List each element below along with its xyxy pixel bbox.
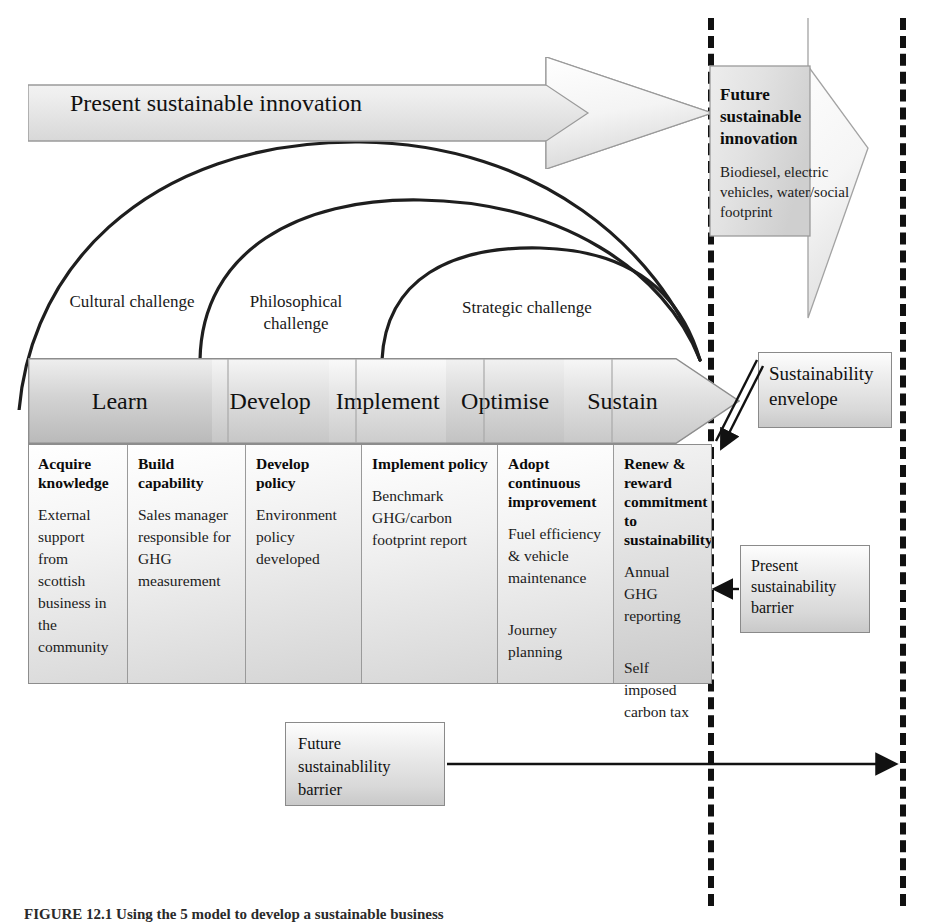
callout-label: Sustainability envelope (769, 363, 874, 409)
future-sustainable-innovation-block: Future sustainable innovation Biodiesel,… (708, 18, 888, 348)
present-sustainable-innovation-arrow: Present sustainable innovation (28, 57, 712, 169)
detail-heading: Build capability (138, 454, 236, 492)
present-arrow-label: Present sustainable innovation (70, 89, 490, 117)
process-band-arrow-tip (681, 358, 740, 444)
detail-column-develop-policy: Develop policy Environment policy develo… (246, 444, 362, 684)
detail-body-secondary: Journey planning (508, 619, 604, 663)
callout-future-sustainability-barrier: Future sustainablility barrier (285, 722, 445, 806)
arc-label-strategic: Strategic challenge (432, 297, 622, 319)
detail-heading: Acquire knowledge (38, 454, 118, 492)
process-stage-label: Develop (230, 388, 311, 415)
process-stage-label: Sustain (587, 388, 658, 415)
process-stage-label: Learn (92, 388, 148, 415)
stage-detail-columns: Acquire knowledge External support from … (28, 444, 712, 684)
detail-column-adopt-continuous-improvement: Adopt continuous improvement Fuel effici… (498, 444, 614, 684)
detail-body: Fuel efficiency & vehicle maintenance (508, 523, 604, 589)
arc-label-philosophical: Philosophical challenge (216, 291, 376, 335)
future-innovation-title: Future sustainable innovation (720, 84, 854, 150)
detail-body: Sales manager responsible for GHG measur… (138, 504, 236, 592)
process-stage-learn[interactable]: Learn (28, 358, 212, 444)
process-stage-develop[interactable]: Develop (212, 358, 329, 444)
detail-heading: Renew & reward commitment to sustainabil… (624, 454, 703, 549)
callout-sustainability-envelope: Sustainability envelope (758, 352, 892, 428)
process-stage-sustain[interactable]: Sustain (564, 358, 681, 444)
arc-label-cultural: Cultural challenge (62, 291, 202, 313)
process-stage-band: Learn Develop Implement Optimise Sustain (28, 358, 740, 444)
future-sustainability-barrier-line (900, 18, 906, 906)
figure-caption: FIGURE 12.1 Using the 5 model to develop… (24, 905, 914, 922)
detail-column-renew-reward: Renew & reward commitment to sustainabil… (614, 444, 712, 684)
callout-present-sustainability-barrier: Present sustainability barrier (740, 545, 870, 633)
detail-heading: Implement policy (372, 454, 488, 473)
philosophical-challenge-arc (200, 200, 700, 360)
detail-body: Annual GHG reporting (624, 561, 703, 627)
future-innovation-body: Biodiesel, electric vehicles, water/soci… (720, 162, 854, 222)
process-stage-optimise[interactable]: Optimise (446, 358, 563, 444)
detail-column-acquire-knowledge: Acquire knowledge External support from … (28, 444, 128, 684)
detail-heading: Develop policy (256, 454, 352, 492)
detail-body: External support from scottish business … (38, 504, 118, 658)
process-stage-fills: Learn Develop Implement Optimise Sustain (28, 358, 740, 444)
process-stage-implement[interactable]: Implement (329, 358, 446, 444)
detail-heading: Adopt continuous improvement (508, 454, 604, 511)
diagram-canvas: Cultural challenge Philosophical challen… (0, 0, 936, 922)
detail-body: Benchmark GHG/carbon footprint report (372, 485, 488, 551)
detail-body: Environment policy developed (256, 504, 352, 570)
detail-column-build-capability: Build capability Sales manager responsib… (128, 444, 246, 684)
process-stage-label: Optimise (461, 388, 549, 415)
callout-label: Present sustainability barrier (751, 557, 836, 616)
detail-body-secondary: Self imposed carbon tax (624, 657, 703, 723)
process-stage-label: Implement (336, 388, 440, 415)
future-innovation-text: Future sustainable innovation Biodiesel,… (720, 84, 854, 222)
callout-label: Future sustainablility barrier (298, 734, 391, 799)
detail-column-implement-policy: Implement policy Benchmark GHG/carbon fo… (362, 444, 498, 684)
